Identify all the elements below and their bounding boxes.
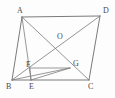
vertex-label-F: F [26, 60, 31, 69]
side-DC [89, 16, 100, 80]
vertex-label-A: A [17, 6, 23, 15]
side-AD [22, 16, 100, 17]
cevian-AE [22, 17, 31, 80]
vertex-label-C: C [88, 82, 93, 91]
geometry-figure: A B C D E F G O [0, 0, 115, 98]
vertex-label-G: G [73, 59, 79, 68]
vertex-label-E: E [29, 82, 34, 91]
segment-EG [31, 68, 70, 80]
figure-diagonals [12, 16, 100, 80]
diagonal-BD [12, 16, 100, 80]
vertex-label-D: D [103, 6, 109, 15]
geometry-canvas: A B C D E F G O [0, 0, 115, 98]
side-AB [12, 17, 22, 80]
segment-EF [30, 68, 31, 80]
vertex-label-O: O [57, 32, 63, 41]
vertex-label-B: B [6, 82, 11, 91]
